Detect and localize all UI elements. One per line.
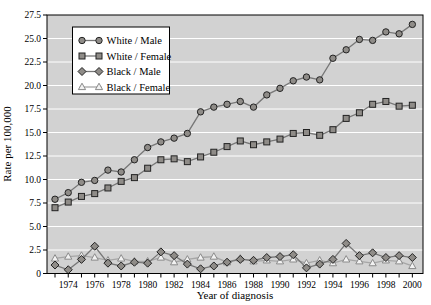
rate-trend-chart: 02.55.07.510.012.515.017.520.022.525.027… bbox=[0, 0, 431, 305]
marker-white-female-1993 bbox=[317, 132, 323, 138]
y-tick-label-0: 0 bbox=[36, 269, 41, 279]
marker-white-male-1976 bbox=[92, 177, 98, 183]
marker-white-female-1987 bbox=[237, 138, 243, 144]
marker-white-female-1973 bbox=[52, 205, 58, 211]
marker-white-male-1993 bbox=[317, 77, 323, 83]
marker-white-female-1976 bbox=[92, 191, 98, 197]
y-tick-label-2.5: 2.5 bbox=[29, 245, 41, 255]
y-tick-label-7.5: 7.5 bbox=[29, 198, 41, 208]
marker-white-male-1990 bbox=[277, 85, 283, 91]
x-tick-label-1976: 1976 bbox=[85, 280, 104, 290]
y-tick-label-15: 15.0 bbox=[24, 128, 41, 138]
marker-white-female-1992 bbox=[303, 130, 309, 136]
legend: White / MaleWhite / FemaleBlack / MaleBl… bbox=[73, 27, 172, 94]
x-tick-label-1998: 1998 bbox=[376, 280, 395, 290]
y-axis-label: Rate per 100,000 bbox=[1, 106, 13, 182]
x-tick-label-1986: 1986 bbox=[218, 280, 237, 290]
legend-marker-left-white-female bbox=[79, 53, 85, 59]
marker-white-male-1987 bbox=[237, 98, 243, 104]
y-tick-label-5: 5.0 bbox=[29, 222, 41, 232]
legend-marker-right-white-female bbox=[96, 53, 102, 59]
y-tick-label-10: 10.0 bbox=[24, 175, 41, 185]
legend-label-white-male: White / Male bbox=[107, 35, 163, 46]
marker-white-male-1982 bbox=[171, 135, 177, 141]
marker-white-female-1974 bbox=[65, 199, 71, 205]
legend-marker-left-white-male bbox=[79, 37, 85, 43]
marker-white-female-1999 bbox=[396, 103, 402, 109]
marker-white-female-1985 bbox=[211, 149, 217, 155]
x-tick-label-1996: 1996 bbox=[350, 280, 369, 290]
marker-white-male-1994 bbox=[330, 55, 336, 61]
legend-label-black-male: Black / Male bbox=[107, 66, 162, 77]
marker-white-female-1994 bbox=[330, 127, 336, 133]
marker-white-male-1974 bbox=[65, 189, 71, 195]
marker-white-female-1981 bbox=[158, 157, 164, 163]
marker-white-male-1979 bbox=[131, 157, 137, 163]
marker-white-male-2000 bbox=[409, 21, 415, 27]
marker-white-male-1992 bbox=[303, 74, 309, 80]
legend-marker-right-white-male bbox=[96, 37, 102, 43]
marker-white-male-1986 bbox=[224, 101, 230, 107]
x-tick-label-1980: 1980 bbox=[138, 280, 157, 290]
marker-white-male-1995 bbox=[343, 47, 349, 53]
x-tick-label-1994: 1994 bbox=[323, 280, 342, 290]
x-tick-label-1978: 1978 bbox=[112, 280, 131, 290]
y-tick-label-27.5: 27.5 bbox=[24, 10, 41, 20]
marker-white-male-1973 bbox=[52, 196, 58, 202]
marker-white-male-1975 bbox=[78, 179, 84, 185]
marker-white-female-1998 bbox=[383, 98, 389, 104]
marker-white-female-1977 bbox=[105, 185, 111, 191]
marker-white-female-1983 bbox=[184, 159, 190, 165]
marker-white-male-1981 bbox=[158, 139, 164, 145]
marker-white-male-1999 bbox=[396, 31, 402, 37]
marker-white-male-1989 bbox=[264, 92, 270, 98]
marker-white-female-1984 bbox=[198, 154, 204, 160]
marker-white-male-1991 bbox=[290, 78, 296, 84]
x-tick-label-2000: 2000 bbox=[403, 280, 422, 290]
y-tick-label-12.5: 12.5 bbox=[24, 151, 41, 161]
marker-white-male-1978 bbox=[118, 169, 124, 175]
y-tick-label-25: 25.0 bbox=[24, 34, 41, 44]
marker-white-female-1990 bbox=[277, 136, 283, 142]
x-tick-label-1984: 1984 bbox=[191, 280, 210, 290]
legend-label-black-female: Black / Female bbox=[107, 82, 171, 93]
marker-white-female-1980 bbox=[145, 165, 151, 171]
marker-white-male-1985 bbox=[211, 104, 217, 110]
marker-white-male-1997 bbox=[369, 37, 375, 43]
marker-white-male-1996 bbox=[356, 36, 362, 42]
marker-white-female-1975 bbox=[78, 193, 84, 199]
x-tick-label-1988: 1988 bbox=[244, 280, 263, 290]
marker-white-female-1995 bbox=[343, 115, 349, 121]
marker-white-male-1984 bbox=[197, 109, 203, 115]
x-tick-label-1982: 1982 bbox=[165, 280, 184, 290]
marker-white-male-1983 bbox=[184, 130, 190, 136]
x-tick-label-1990: 1990 bbox=[270, 280, 289, 290]
legend-label-white-female: White / Female bbox=[107, 51, 172, 62]
marker-white-female-1996 bbox=[356, 110, 362, 116]
marker-white-female-1979 bbox=[131, 175, 137, 181]
y-tick-label-22.5: 22.5 bbox=[24, 57, 41, 67]
marker-white-male-1977 bbox=[105, 167, 111, 173]
marker-white-female-2000 bbox=[409, 102, 415, 108]
marker-white-female-1997 bbox=[370, 101, 376, 107]
y-tick-label-17.5: 17.5 bbox=[24, 104, 41, 114]
x-tick-label-1974: 1974 bbox=[59, 280, 78, 290]
marker-white-female-1986 bbox=[224, 144, 230, 150]
marker-white-female-1991 bbox=[290, 130, 296, 136]
marker-white-male-1980 bbox=[144, 144, 150, 150]
marker-white-female-1978 bbox=[118, 178, 124, 184]
marker-white-female-1982 bbox=[171, 156, 177, 162]
marker-white-female-1988 bbox=[251, 142, 257, 148]
y-tick-label-20: 20.0 bbox=[24, 81, 41, 91]
marker-white-female-1989 bbox=[264, 139, 270, 145]
x-tick-label-1992: 1992 bbox=[297, 280, 316, 290]
marker-white-male-1998 bbox=[383, 29, 389, 35]
marker-white-male-1988 bbox=[250, 104, 256, 110]
melanoma-incidence-figure: 02.55.07.510.012.515.017.520.022.525.027… bbox=[0, 0, 431, 305]
x-axis-label: Year of diagnosis bbox=[197, 289, 274, 301]
